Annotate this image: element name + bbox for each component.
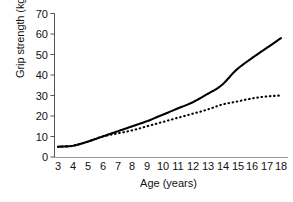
series-solid-line [58,38,281,147]
plot-svg [0,0,293,202]
plot-area [0,0,293,202]
grip-strength-chart: Grip strength (kg) 70 60 50 40 30 20 10 … [0,0,293,202]
y-axis-tick-marks [51,14,55,158]
series-dotted-line [58,96,281,147]
